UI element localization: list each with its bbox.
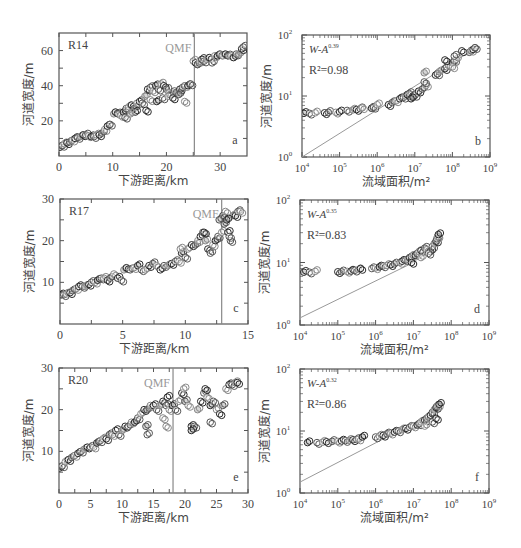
data-point	[433, 415, 440, 422]
data-point	[421, 423, 428, 430]
data-point	[175, 398, 182, 405]
x-axis-label: 流域面积/m²	[360, 343, 429, 357]
y-tick-label: 20	[42, 234, 54, 248]
y-axis-label: 河道宽度/m	[21, 399, 36, 463]
panel-letter: f	[475, 470, 479, 484]
x-tick-label: 104	[293, 329, 308, 342]
data-point	[187, 81, 194, 88]
x-axis-label: 下游距离/km	[118, 510, 189, 525]
data-point	[194, 406, 201, 413]
data-point	[304, 439, 311, 446]
data-point	[442, 57, 449, 64]
x-tick-label: 104	[295, 161, 310, 174]
data-point	[185, 402, 192, 409]
x-axis-label: 下游距离/km	[118, 173, 189, 188]
panel-letter: b	[475, 134, 481, 148]
x-tick-label: 109	[483, 161, 498, 174]
data-point	[359, 434, 366, 441]
x-tick-label: 104	[293, 497, 308, 510]
x-tick-label: 30	[242, 497, 254, 511]
panel-e: 051015202530102030下游距离/km河道宽度/mR20QMFe	[21, 361, 254, 525]
y-tick-label: 102	[276, 362, 291, 375]
data-point	[325, 109, 332, 116]
x-tick-label: 108	[445, 161, 460, 174]
x-tick-label: 5	[88, 497, 94, 511]
data-point	[180, 386, 187, 393]
y-tick-label: 101	[278, 89, 293, 102]
data-point	[197, 398, 204, 405]
data-point	[188, 427, 195, 434]
data-point	[172, 406, 179, 413]
panel-c: 051015102030下游距离/km河道宽度/mR17QMFc	[22, 192, 254, 356]
data-point	[164, 394, 171, 401]
data-point	[220, 402, 227, 409]
x-tick-label: 107	[408, 161, 423, 174]
data-point	[181, 98, 188, 105]
x-tick-label: 108	[444, 329, 459, 342]
y-tick-label: 30	[42, 192, 54, 206]
data-point	[451, 53, 458, 60]
data-point	[436, 401, 443, 408]
data-point	[357, 265, 364, 272]
y-tick-label: 101	[276, 424, 291, 437]
data-point	[218, 229, 225, 236]
qmf-label: QMF	[144, 376, 170, 390]
site-label: R17	[69, 204, 89, 218]
y-axis-label: 河道宽度/m	[257, 231, 272, 295]
fit-equation: W-A0.32	[307, 377, 337, 389]
data-point	[421, 70, 428, 77]
x-tick-label: 0	[57, 328, 63, 342]
data-point	[176, 258, 183, 265]
x-tick-label: 105	[331, 497, 346, 510]
data-point	[222, 208, 229, 215]
data-point	[127, 111, 134, 118]
x-tick-label: 107	[406, 497, 421, 510]
data-point	[202, 386, 209, 393]
x-tick-label: 10	[179, 328, 191, 342]
panel-a: 0102030204060下游距离/km河道宽度/mR14QMFa	[21, 33, 249, 188]
site-label: R14	[68, 38, 88, 52]
data-point	[234, 379, 241, 386]
data-point	[312, 268, 319, 275]
data-point	[472, 44, 479, 51]
x-tick-label: 106	[370, 161, 385, 174]
fit-equation: W-A0.35	[307, 208, 337, 220]
y-tick-label: 100	[276, 486, 291, 499]
x-tick-label: 0	[56, 497, 62, 511]
data-point	[408, 95, 415, 102]
x-tick-label: 0	[56, 160, 62, 174]
x-tick-label: 108	[444, 497, 459, 510]
x-tick-label: 10	[107, 160, 119, 174]
data-point	[175, 91, 182, 98]
x-tick-label: 107	[406, 329, 421, 342]
data-point	[336, 109, 343, 116]
r-squared-label: R²=0.98	[309, 63, 348, 77]
data-point	[207, 419, 214, 426]
x-tick-label: 30	[214, 160, 226, 174]
data-point	[237, 208, 244, 215]
data-point	[408, 259, 415, 266]
panel-letter: e	[233, 470, 238, 484]
data-point	[177, 246, 184, 253]
site-label: R20	[68, 373, 88, 387]
data-point	[418, 254, 425, 261]
data-point	[435, 231, 442, 238]
plot-area	[301, 44, 481, 157]
data-point	[226, 233, 233, 240]
y-tick-label: 20	[41, 403, 53, 417]
y-axis-label: 河道宽度/m	[257, 399, 272, 463]
data-point	[216, 411, 223, 418]
panel-letter: a	[232, 133, 238, 147]
plot-area	[300, 399, 444, 482]
data-point	[210, 398, 217, 405]
data-point	[107, 121, 114, 128]
qmf-label: QMF	[193, 207, 219, 221]
x-tick-label: 15	[148, 497, 160, 511]
y-tick-label: 101	[276, 256, 291, 269]
y-tick-label: 102	[276, 193, 291, 206]
y-axis-label: 河道宽度/m	[259, 64, 274, 128]
panel-letter: d	[474, 302, 480, 316]
data-point	[204, 394, 211, 401]
data-point	[144, 431, 151, 438]
r-squared-label: R²=0.83	[307, 228, 346, 242]
